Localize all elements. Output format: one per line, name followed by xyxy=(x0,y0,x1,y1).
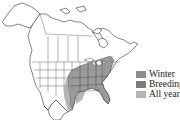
legend-item-breeding: Breeding xyxy=(136,79,180,89)
winter-swatch xyxy=(136,71,146,78)
legend-item-all-year: All year xyxy=(136,89,180,99)
legend-label: All year xyxy=(149,89,180,99)
legend-item-winter: Winter xyxy=(136,69,180,79)
legend-label: Breeding xyxy=(149,79,180,89)
legend-label: Winter xyxy=(149,69,175,79)
range-map xyxy=(0,0,180,120)
breeding-swatch xyxy=(136,81,146,88)
all-year-swatch xyxy=(136,91,146,98)
legend: Winter Breeding All year xyxy=(136,69,180,99)
